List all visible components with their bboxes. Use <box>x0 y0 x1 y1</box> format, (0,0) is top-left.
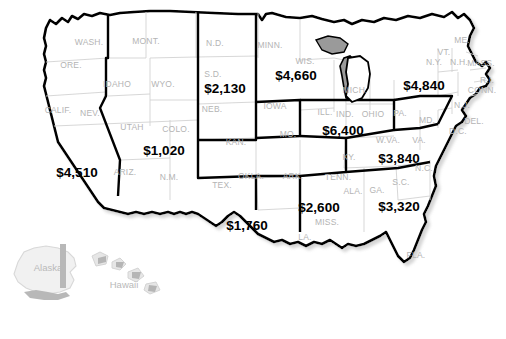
us-regional-map: WASH.ORE.MONT.IDAHOWYO.N.D.S.D.NEB.MINN.… <box>0 0 506 339</box>
region-value-great-lakes: $6,400 <box>322 123 363 138</box>
region-value-middle-atlantic: $4,840 <box>403 78 444 93</box>
region-value-west-south-central: $1,760 <box>226 218 267 233</box>
region-value-south-atlantic-lower: $3,320 <box>378 199 419 214</box>
region-value-west-north-central: $2,130 <box>204 81 245 96</box>
inset-label-alaska: Alaska <box>34 262 63 273</box>
inset-label-hawaii: Hawaii <box>110 279 139 290</box>
region-value-east-south-central: $2,600 <box>298 200 339 215</box>
region-value-mountain: $1,020 <box>143 143 184 158</box>
region-value-south-atlantic-upper: $3,840 <box>378 151 419 166</box>
region-value-pacific: $4,510 <box>56 165 97 180</box>
region-value-east-north-central: $4,660 <box>275 68 316 83</box>
